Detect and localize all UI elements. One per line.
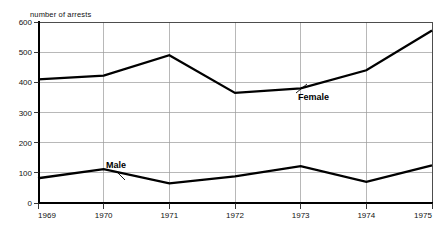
xtick-label-1973: 1973: [292, 211, 310, 220]
series-label-female: Female: [298, 92, 329, 102]
y-axis-tick-labels: 0100200300400500600: [19, 18, 33, 208]
ytick-label-0: 0: [28, 199, 33, 208]
xtick-label-1975: 1975: [414, 211, 432, 220]
x-axis-tick-labels: 1969197019711972197319741975: [38, 211, 432, 220]
ytick-label-400: 400: [19, 78, 33, 87]
xtick-label-1974: 1974: [357, 211, 375, 220]
xtick-label-1969: 1969: [38, 211, 56, 220]
xtick-label-1971: 1971: [160, 211, 178, 220]
ytick-label-600: 600: [19, 18, 33, 27]
ytick-label-100: 100: [19, 169, 33, 178]
xtick-label-1972: 1972: [226, 211, 244, 220]
series-label-male: Male: [106, 160, 126, 170]
series-annotations: FemaleMale: [106, 84, 329, 180]
ytick-label-500: 500: [19, 48, 33, 57]
xtick-label-1970: 1970: [95, 211, 113, 220]
ytick-label-200: 200: [19, 139, 33, 148]
arrests-line-chart: number of arrests 0100200300400500600 19…: [0, 0, 442, 228]
ytick-label-300: 300: [19, 109, 33, 118]
chart-plot-area: 0100200300400500600 19691970197119721973…: [0, 0, 442, 228]
